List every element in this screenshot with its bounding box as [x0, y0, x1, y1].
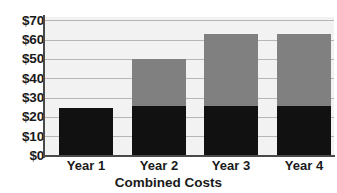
bar-segment-upper[interactable]	[132, 59, 186, 105]
bar-segment-upper[interactable]	[204, 34, 258, 105]
bar-group[interactable]	[277, 17, 331, 156]
bar-segment-lower[interactable]	[132, 106, 186, 156]
y-axis-tick-label: $30	[2, 91, 44, 105]
bar-group[interactable]	[204, 17, 258, 156]
y-axis-tick-label: $70	[2, 14, 44, 28]
x-axis-line	[43, 155, 335, 157]
bar-chart: $0$10$20$30$40$50$60$70 Year 1Year 2Year…	[0, 0, 337, 193]
x-axis-tick-label: Year 4	[268, 158, 337, 174]
x-axis-tick-label: Year 1	[50, 158, 122, 174]
bar-group[interactable]	[132, 17, 186, 156]
bar-segment-lower[interactable]	[277, 106, 331, 156]
y-axis-tick-label: $10	[2, 130, 44, 144]
plot-area	[44, 17, 334, 156]
bar-segment-upper[interactable]	[277, 34, 331, 105]
x-axis-tick-label: Year 2	[123, 158, 195, 174]
bar-group[interactable]	[59, 17, 113, 156]
bar-segment-lower[interactable]	[59, 108, 113, 156]
y-axis-tick-labels: $0$10$20$30$40$50$60$70	[0, 0, 44, 193]
y-axis-tick-label: $50	[2, 53, 44, 67]
x-axis-tick-labels: Year 1Year 2Year 3Year 4	[44, 158, 334, 176]
y-axis-tick-label: $20	[2, 111, 44, 125]
y-axis-tick-label: $60	[2, 33, 44, 47]
y-axis-tick-label: $0	[2, 149, 44, 163]
x-axis-title: Combined Costs	[0, 175, 337, 191]
y-axis-line	[43, 15, 45, 158]
bar-segment-lower[interactable]	[204, 106, 258, 156]
x-axis-tick-label: Year 3	[195, 158, 267, 174]
y-axis-tick-label: $40	[2, 72, 44, 86]
